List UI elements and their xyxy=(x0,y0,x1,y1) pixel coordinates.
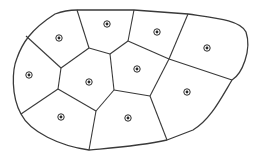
seed-points xyxy=(26,21,210,121)
cell-edge xyxy=(89,48,110,54)
outer-boundary xyxy=(13,10,247,150)
cell-edge xyxy=(89,111,96,150)
cell-edge xyxy=(26,36,61,68)
cell-edge xyxy=(58,68,61,89)
seed-point-icon xyxy=(184,89,190,95)
voronoi-diagram xyxy=(0,0,258,160)
seed-point-icon xyxy=(56,35,62,41)
cell-edge xyxy=(169,14,188,59)
seed-point-icon xyxy=(154,29,160,35)
seed-point-icon xyxy=(58,114,64,120)
cell-edge xyxy=(110,41,128,54)
cell-edge xyxy=(114,90,150,96)
cell-edge xyxy=(169,59,232,80)
cell-edge xyxy=(96,90,114,111)
cell-edge xyxy=(58,89,96,111)
cell-edge xyxy=(21,89,58,114)
cell-edge xyxy=(77,10,89,48)
cell-edge xyxy=(128,41,169,59)
seed-point-icon xyxy=(134,66,140,72)
seed-point-icon xyxy=(204,45,210,51)
cell-edge xyxy=(128,10,134,41)
seed-point-icon xyxy=(26,72,32,78)
seed-point-icon xyxy=(125,115,131,121)
seed-point-icon xyxy=(86,79,92,85)
cell-edge xyxy=(150,59,169,96)
cell-edges xyxy=(21,10,232,150)
cell-edge xyxy=(150,96,167,140)
voronoi-svg xyxy=(0,0,258,160)
cell-edge xyxy=(61,48,89,68)
seed-point-icon xyxy=(104,21,110,27)
cell-edge xyxy=(110,54,114,90)
